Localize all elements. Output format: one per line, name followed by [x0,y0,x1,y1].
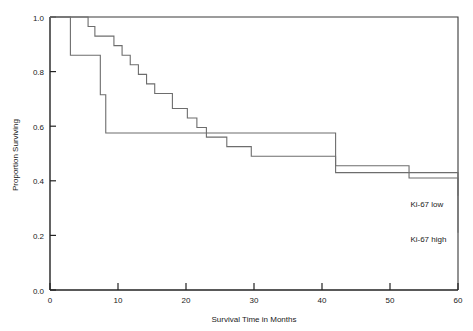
x-tick-label-1: 10 [114,296,123,305]
x-tick-label-5: 50 [386,296,395,305]
y-tick-label-1: 0.2 [33,232,45,241]
kaplan-meier-figure: 1.0 0.8 0.6 0.4 0.2 0.0 0 10 20 30 40 50… [0,0,473,331]
x-tick-label-4: 40 [318,296,327,305]
x-tick-label-3: 30 [250,296,259,305]
plot-frame [50,17,458,290]
y-tick-label-0: 0.0 [33,287,45,296]
series-label-ki67-high: Ki-67 high [410,235,446,244]
y-axis-ticks [50,17,56,290]
x-tick-label-2: 20 [182,296,191,305]
survival-chart-svg: 1.0 0.8 0.6 0.4 0.2 0.0 0 10 20 30 40 50… [0,0,473,331]
y-tick-label-3: 0.6 [33,123,45,132]
survival-curve-ki67-high [50,17,458,233]
x-axis-ticks [50,283,458,290]
x-axis-title: Survival Time in Months [212,315,297,324]
x-tick-label-6: 60 [454,296,463,305]
y-tick-label-2: 0.4 [33,177,45,186]
data-series-group [50,17,458,233]
frame-top-right-border [50,17,458,290]
x-axis-tick-labels: 0 10 20 30 40 50 60 [48,296,463,305]
y-tick-label-4: 0.8 [33,68,45,77]
survival-curve-ki67-low [50,17,458,196]
y-tick-label-5: 1.0 [33,14,45,23]
series-label-ki67-low: Ki-67 low [410,200,443,209]
y-axis-title: Proportion Surviving [11,119,20,191]
y-axis-tick-labels: 1.0 0.8 0.6 0.4 0.2 0.0 [33,14,45,296]
x-tick-label-0: 0 [48,296,53,305]
series-annotation-labels: Ki-67 low Ki-67 high [410,200,446,244]
